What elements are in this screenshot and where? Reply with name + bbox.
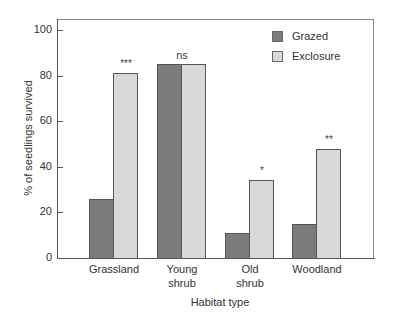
y-axis-line (57, 19, 58, 259)
y-tick-label: 0 (22, 251, 52, 263)
x-category-label: Woodland (282, 262, 352, 276)
legend-swatch-exclosure (272, 51, 283, 62)
bar-grazed (89, 199, 114, 259)
legend-label-grazed: Grazed (292, 30, 328, 42)
significance-label: *** (111, 58, 141, 69)
bar-exclosure (113, 73, 138, 259)
y-axis-title: % of seedlings survived (22, 68, 34, 208)
x-category-label: Grassland (79, 262, 149, 276)
legend-label-exclosure: Exclosure (292, 50, 340, 62)
y-tick-mark (57, 258, 63, 259)
significance-label: * (247, 165, 277, 176)
bar-exclosure (181, 64, 206, 259)
significance-label: ns (167, 49, 197, 61)
legend-swatch-grazed (272, 31, 283, 42)
bar-grazed (225, 233, 250, 259)
x-axis-title: Habitat type (150, 296, 290, 308)
x-category-label: Young shrub (147, 262, 217, 290)
legend-item-grazed: Grazed (272, 30, 328, 42)
legend-item-exclosure: Exclosure (272, 50, 340, 62)
significance-label: ** (314, 134, 344, 145)
y-tick-mark (57, 167, 63, 168)
bar-exclosure (249, 180, 274, 259)
bar-exclosure (316, 149, 341, 259)
x-category-label: Old shrub (215, 262, 285, 290)
y-tick-label: 100 (22, 23, 52, 35)
bar-grazed (292, 224, 317, 259)
y-tick-mark (57, 30, 63, 31)
bar-grazed (157, 64, 182, 259)
y-tick-mark (57, 212, 63, 213)
y-tick-mark (57, 121, 63, 122)
y-tick-mark (57, 76, 63, 77)
